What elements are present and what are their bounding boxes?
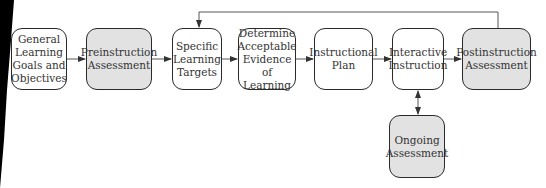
- node-label: Postinstruction Assessment: [456, 46, 537, 72]
- node-preinstruction-assessment: Preinstruction Assessment: [86, 28, 152, 90]
- node-label: Specific Learning Targets: [173, 40, 221, 79]
- node-label: Ongoing Assessment: [386, 134, 449, 160]
- node-label: General Learning Goals and Objectives: [11, 33, 67, 85]
- node-instructional-plan: Instructional Plan: [314, 28, 373, 90]
- node-label: Interactive Instruction: [389, 46, 448, 72]
- node-general-learning-goals: General Learning Goals and Objectives: [11, 28, 67, 90]
- node-acceptable-evidence: Determine Acceptable Evidence of Learnin…: [238, 28, 296, 90]
- node-specific-learning-targets: Specific Learning Targets: [172, 28, 222, 90]
- node-label: Instructional Plan: [309, 46, 377, 72]
- node-interactive-instruction: Interactive Instruction: [392, 28, 444, 90]
- node-postinstruction-assessment: Postinstruction Assessment: [462, 28, 531, 90]
- node-ongoing-assessment: Ongoing Assessment: [389, 115, 445, 178]
- node-label: Determine Acceptable Evidence of Learnin…: [237, 27, 296, 92]
- node-label: Preinstruction Assessment: [81, 46, 157, 72]
